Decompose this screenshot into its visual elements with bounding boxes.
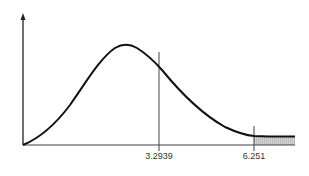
distribution-chart [0,0,309,176]
tick-label-3.2939: 3.2939 [145,151,173,161]
y-axis-arrow-icon [21,13,26,20]
tick-label-6.251: 6.251 [243,151,266,161]
